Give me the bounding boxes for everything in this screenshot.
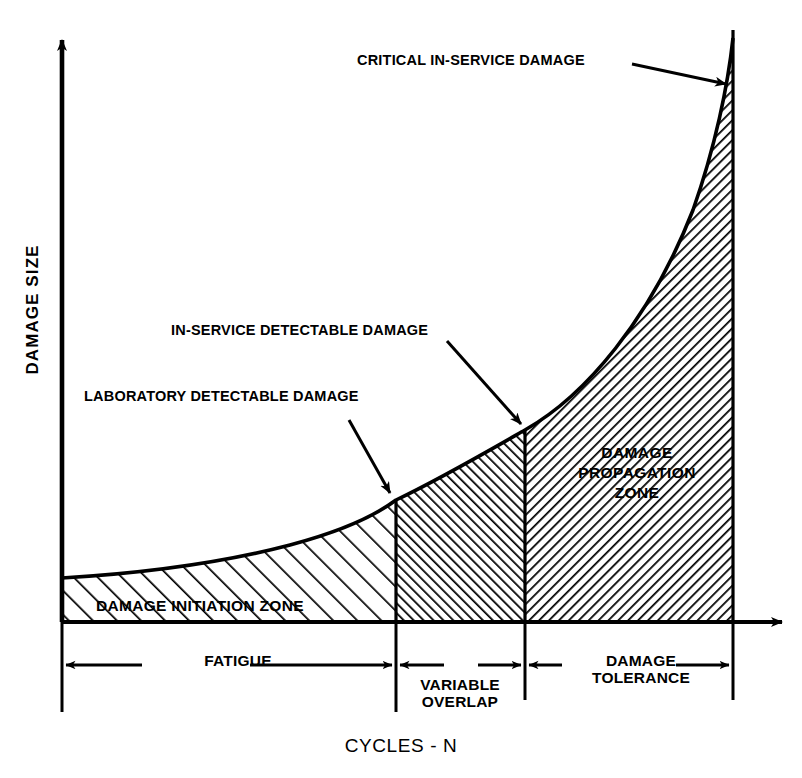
zone-label-line-2: PROPAGATION [563, 463, 711, 483]
zone-fill-variable-overlap [396, 430, 525, 622]
zone-label-line-1: DAMAGE [563, 443, 711, 463]
leader-in-service-detectable-damage [447, 341, 521, 424]
dimension-label-variable-overlap: VARIABLE OVERLAP [404, 676, 516, 711]
dimension-label-fatigue: FATIGUE [148, 652, 328, 669]
zone-label-damage-initiation-zone: DAMAGE INITIATION ZONE [96, 597, 304, 614]
callout-laboratory-detectable-damage: LABORATORY DETECTABLE DAMAGE [84, 388, 359, 404]
x-axis-label: CYCLES - N [0, 735, 802, 756]
callout-critical-in-service-damage: CRITICAL IN-SERVICE DAMAGE [357, 52, 585, 68]
callout-in-service-detectable-damage: IN-SERVICE DETECTABLE DAMAGE [171, 322, 428, 338]
dimension-label-line-2: TOLERANCE [566, 669, 716, 686]
leader-laboratory-detectable-damage [349, 420, 390, 493]
figure-canvas: DAMAGE SIZE CYCLES - N CRITICAL IN-SERVI… [0, 0, 802, 778]
leader-critical-in-service-damage [632, 64, 726, 84]
dimension-label-damage-tolerance: DAMAGE TOLERANCE [566, 652, 716, 687]
zone-label-line-3: ZONE [563, 483, 711, 503]
dimension-label-line-1: DAMAGE [566, 652, 716, 669]
zone-label-damage-propagation-zone: DAMAGE PROPAGATION ZONE [563, 443, 711, 502]
dimension-label-line-1: VARIABLE [404, 676, 516, 693]
y-axis-label: DAMAGE SIZE [23, 215, 42, 405]
dimension-label-line-2: OVERLAP [404, 693, 516, 710]
